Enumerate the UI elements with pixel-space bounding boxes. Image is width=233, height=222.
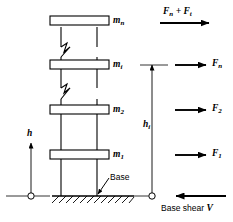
base-callout-label: Base: [110, 173, 129, 182]
break-symbol-upper: [61, 43, 70, 57]
mass-label-1: m1: [113, 150, 124, 160]
force-label-n: Fn: [212, 59, 222, 69]
floor-slabs: [50, 16, 109, 159]
slab-n: [50, 16, 109, 25]
figure-canvas: mn mi m2 m1 Base h hi Fn + Ft Fn F2 F1 B…: [0, 0, 233, 222]
height-axis-hi: [134, 65, 168, 199]
ground-hatching: [52, 196, 134, 203]
force-arrows: [160, 23, 209, 155]
base-leader-line: [98, 178, 109, 194]
force-label-top: Fn + Ft: [163, 7, 192, 17]
mass-label-2: m2: [113, 105, 124, 115]
height-label-hi: hi: [143, 120, 150, 130]
mass-label-i: mi: [113, 60, 122, 70]
slab-2: [50, 105, 109, 114]
height-axis-h: [6, 143, 50, 199]
force-label-1: F1: [212, 149, 222, 159]
mass-label-n: mn: [113, 16, 124, 26]
base-shear-label: Base shear V: [161, 204, 213, 214]
slab-1: [50, 150, 109, 159]
break-symbol-lower: [61, 84, 70, 99]
height-label-h: h: [27, 129, 32, 139]
force-label-2: F2: [212, 104, 222, 114]
slab-i: [50, 60, 109, 69]
